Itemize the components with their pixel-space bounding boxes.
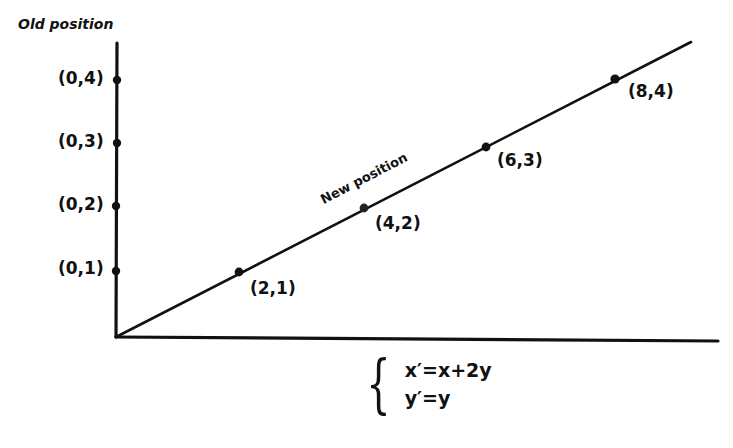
new-position-line bbox=[116, 42, 691, 337]
new-point-label: (2,1) bbox=[250, 278, 296, 298]
equation-system: { x′=x+2y y′=y bbox=[358, 352, 492, 416]
old-point-label: (0,3) bbox=[58, 131, 104, 151]
y-axis-title: Old position bbox=[18, 16, 113, 32]
old-point-0-2 bbox=[112, 202, 120, 210]
old-point-label: (0,4) bbox=[58, 68, 104, 88]
y-axis bbox=[116, 43, 117, 337]
equation-x: x′=x+2y bbox=[405, 359, 492, 381]
new-point-label: (6,3) bbox=[497, 150, 543, 170]
x-axis bbox=[116, 337, 718, 341]
new-point-4-2 bbox=[360, 204, 369, 213]
old-point-0-1 bbox=[112, 267, 120, 275]
old-point-label: (0,2) bbox=[58, 194, 104, 214]
new-point-label: (8,4) bbox=[628, 81, 674, 101]
new-point-8-4 bbox=[610, 74, 619, 83]
equation-y: y′=y bbox=[405, 387, 492, 409]
old-point-0-4 bbox=[113, 76, 121, 84]
old-point-0-3 bbox=[113, 139, 121, 147]
new-point-2-1 bbox=[235, 268, 244, 277]
new-point-6-3 bbox=[482, 143, 491, 152]
brace-icon: { bbox=[366, 352, 390, 416]
new-point-label: (4,2) bbox=[375, 213, 421, 233]
old-point-label: (0,1) bbox=[58, 258, 104, 278]
